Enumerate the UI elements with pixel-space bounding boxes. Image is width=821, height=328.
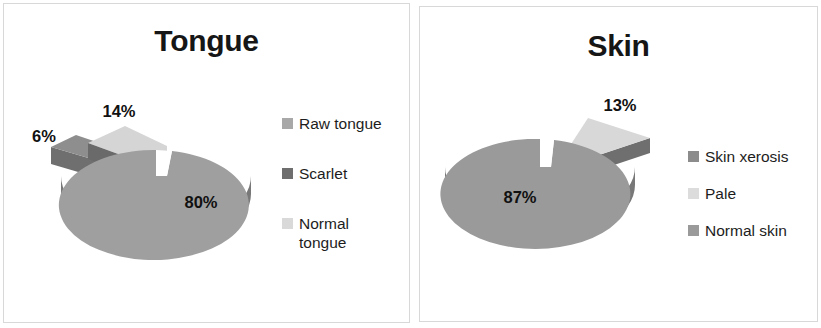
legend-label: Raw tongue bbox=[299, 114, 382, 134]
legend-swatch-icon bbox=[282, 168, 293, 179]
data-label-pale: 13% bbox=[603, 96, 636, 114]
legend-item-scarlet[interactable]: Scarlet bbox=[282, 164, 410, 184]
data-label-normal-tongue: 14% bbox=[102, 102, 135, 120]
legend-swatch-icon bbox=[688, 151, 699, 162]
data-label-raw-tongue: 80% bbox=[184, 193, 217, 211]
data-label-scarlet: 6% bbox=[32, 127, 56, 145]
legend-swatch-icon bbox=[282, 118, 293, 129]
legend-swatch-icon bbox=[688, 188, 699, 199]
legend-label: Normal tongue bbox=[299, 214, 349, 254]
legend-item-pale[interactable]: Pale bbox=[688, 184, 820, 204]
data-label-skin-xerosis: 87% bbox=[503, 188, 536, 206]
legend-swatch-icon bbox=[282, 218, 293, 229]
legend-label: Skin xerosis bbox=[705, 147, 789, 167]
legend-label: Pale bbox=[705, 184, 736, 204]
legend-item-normal-skin[interactable]: Normal skin bbox=[688, 221, 820, 241]
two-pie-chart-figure: Tongue bbox=[0, 0, 821, 328]
legend-label: Scarlet bbox=[299, 164, 347, 184]
legend-item-skin-xerosis[interactable]: Skin xerosis bbox=[688, 147, 820, 167]
legend-skin: Skin xerosis Pale Normal skin bbox=[688, 147, 820, 257]
legend-label: Normal skin bbox=[705, 221, 787, 241]
legend-item-normal-tongue[interactable]: Normal tongue bbox=[282, 214, 410, 254]
legend-tongue: Raw tongue Scarlet Normal tongue bbox=[282, 114, 410, 283]
pie-slice-raw-tongue-3d bbox=[59, 150, 251, 260]
legend-item-raw-tongue[interactable]: Raw tongue bbox=[282, 114, 410, 134]
chart-panel-tongue: Tongue bbox=[3, 3, 410, 323]
chart-panel-skin: Skin 13% 87% Skin xerosis bbox=[419, 6, 818, 322]
legend-swatch-icon bbox=[688, 225, 699, 236]
